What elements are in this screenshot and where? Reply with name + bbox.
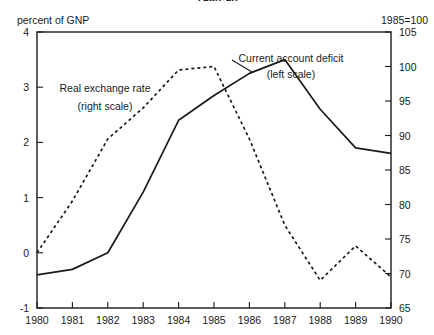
x-axis-tick-label: 1982	[96, 314, 120, 326]
x-axis-tick-label: 1987	[273, 314, 297, 326]
x-axis-tick-label: 1984	[167, 314, 191, 326]
annotation-real-exchange-line2: (right scale)	[78, 100, 133, 112]
x-axis-tick-label: 1990	[379, 314, 403, 326]
y2-axis-tick-label: 85	[399, 164, 411, 176]
x-axis-tick-label: 1985	[202, 314, 226, 326]
annotation-current-account-line1: Current account deficit	[238, 52, 343, 64]
y2-axis-tick-label: 105	[399, 26, 417, 38]
y-axis-tick-label: 1	[23, 192, 29, 204]
chart-figure: 1980-90 percent of GNP 1985=100 -1012346…	[0, 0, 434, 335]
y2-axis-tick-label: 70	[399, 268, 411, 280]
plot-area: -101234657075808590951001051980198119821…	[0, 0, 434, 335]
x-axis-tick-label: 1981	[61, 314, 85, 326]
y2-axis-tick-label: 95	[399, 95, 411, 107]
series-line-real-exchange-rate	[37, 67, 391, 281]
y-axis-tick-label: 0	[23, 247, 29, 259]
x-axis-tick-label: 1988	[309, 314, 333, 326]
y-axis-tick-label: -1	[20, 302, 29, 314]
y2-axis-tick-label: 65	[399, 302, 411, 314]
x-axis-tick-label: 1986	[238, 314, 262, 326]
y2-axis-tick-label: 75	[399, 233, 411, 245]
x-axis-tick-label: 1989	[344, 314, 368, 326]
y2-axis-tick-label: 90	[399, 130, 411, 142]
y-axis-tick-label: 3	[23, 81, 29, 93]
annotation-current-account-line2: (left scale)	[267, 68, 315, 80]
y-axis-tick-label: 2	[23, 136, 29, 148]
x-axis-tick-label: 1983	[132, 314, 156, 326]
y-axis-tick-label: 4	[23, 26, 29, 38]
y2-axis-tick-label: 80	[399, 199, 411, 211]
x-axis-tick-label: 1980	[25, 314, 49, 326]
y2-axis-tick-label: 100	[399, 61, 417, 73]
annotation-real-exchange-line1: Real exchange rate	[59, 82, 150, 94]
